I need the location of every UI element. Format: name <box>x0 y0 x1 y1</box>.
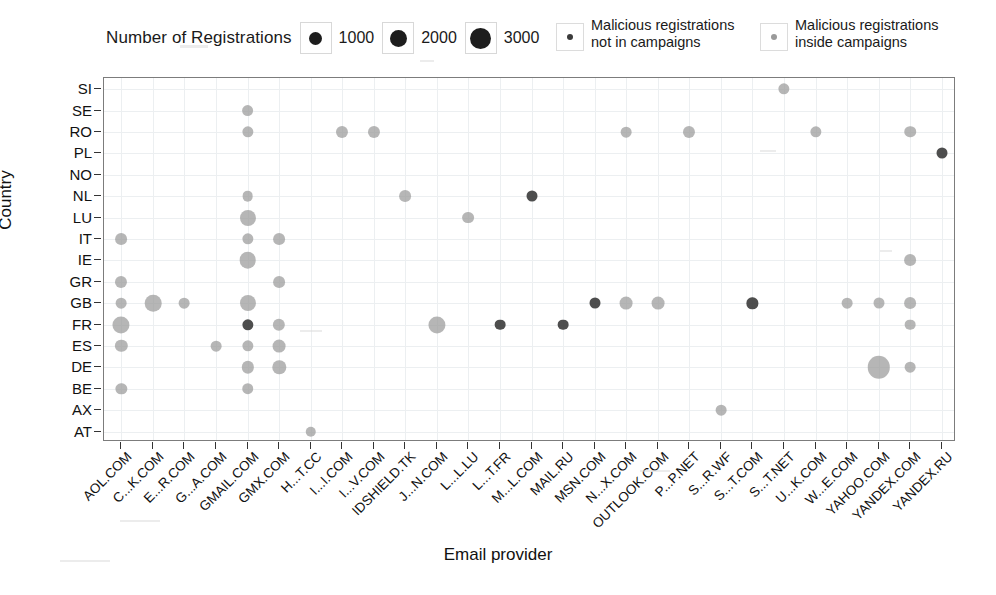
x-tick-mark <box>120 442 121 449</box>
gridline-horizontal <box>104 153 954 154</box>
gridline-vertical <box>532 78 533 440</box>
y-tick-mark <box>94 217 101 218</box>
data-point <box>558 319 569 330</box>
y-tick-mark <box>94 409 101 410</box>
gridline-vertical <box>563 78 564 440</box>
data-point <box>867 356 889 378</box>
data-point <box>905 362 916 373</box>
gridline-horizontal <box>104 432 954 433</box>
x-tick-mark <box>941 442 942 449</box>
gridline-horizontal <box>104 89 954 90</box>
data-point <box>428 316 445 333</box>
x-tick-mark <box>247 442 248 449</box>
gridline-vertical <box>153 78 154 440</box>
data-point <box>747 298 758 309</box>
x-axis-tick-labels: AOL.COMC...K.COME...R.COMG...A.COMGMAIL.… <box>0 449 996 539</box>
y-tick-mark <box>94 431 101 432</box>
x-tick-mark <box>783 442 784 449</box>
x-tick-mark <box>531 442 532 449</box>
data-point <box>272 361 285 374</box>
data-point <box>116 298 127 309</box>
x-tick-mark <box>436 442 437 449</box>
x-tick-mark <box>341 442 342 449</box>
scan-artifact <box>60 560 110 562</box>
x-tick-mark <box>467 442 468 449</box>
y-tick-mark <box>94 88 101 89</box>
gridline-horizontal <box>104 325 954 326</box>
gridline-vertical <box>658 78 659 440</box>
data-point <box>873 298 884 309</box>
y-tick-mark <box>94 302 101 303</box>
gridline-horizontal <box>104 218 954 219</box>
data-point <box>620 297 633 310</box>
x-axis-title: Email provider <box>0 545 996 565</box>
gridline-vertical <box>847 78 848 440</box>
data-point <box>115 340 127 352</box>
gridline-vertical <box>279 78 280 440</box>
x-tick-mark <box>878 442 879 449</box>
x-tick-mark <box>152 442 153 449</box>
x-tick-mark <box>499 442 500 449</box>
scan-artifact <box>300 330 322 332</box>
gridline-vertical <box>437 78 438 440</box>
data-point <box>368 126 380 138</box>
gridline-vertical <box>942 78 943 440</box>
data-point <box>683 126 695 138</box>
gridline-horizontal <box>104 260 954 261</box>
data-point <box>905 319 916 330</box>
data-point <box>240 210 256 226</box>
gridline-vertical <box>752 78 753 440</box>
x-tick-mark <box>846 442 847 449</box>
gridline-vertical <box>721 78 722 440</box>
x-tick-mark <box>720 442 721 449</box>
x-tick-mark <box>688 442 689 449</box>
gridline-horizontal <box>104 389 954 390</box>
gridline-horizontal <box>104 175 954 176</box>
data-point <box>273 340 286 353</box>
data-point <box>526 191 537 202</box>
scan-artifact <box>180 45 208 48</box>
data-point <box>589 298 600 309</box>
gridline-horizontal <box>104 410 954 411</box>
scan-artifact <box>760 150 776 152</box>
y-tick-mark <box>94 366 101 367</box>
data-point <box>242 319 253 330</box>
gridline-vertical <box>468 78 469 440</box>
x-tick-mark <box>815 442 816 449</box>
gridline-vertical <box>184 78 185 440</box>
data-point <box>651 297 664 310</box>
gridline-vertical <box>784 78 785 440</box>
data-point <box>904 255 916 267</box>
data-point <box>116 383 127 394</box>
data-point <box>904 297 916 309</box>
x-tick-mark <box>310 442 311 449</box>
x-tick-mark <box>562 442 563 449</box>
x-tick-mark <box>183 442 184 449</box>
bubble-chart: Country SISEROPLNONLLUITIEGRGBFRESDEBEAX… <box>0 0 996 595</box>
data-point <box>211 341 222 352</box>
x-tick-mark <box>657 442 658 449</box>
scan-artifact <box>120 520 160 522</box>
y-tick-mark <box>94 195 101 196</box>
x-tick-mark <box>625 442 626 449</box>
gridline-horizontal <box>104 367 954 368</box>
x-tick-mark <box>594 442 595 449</box>
data-point <box>273 233 285 245</box>
data-point <box>242 383 254 395</box>
gridline-horizontal <box>104 239 954 240</box>
y-tick-mark <box>94 110 101 111</box>
data-point <box>936 148 947 159</box>
data-point <box>241 361 253 373</box>
gridline-horizontal <box>104 346 954 347</box>
y-tick-mark <box>94 324 101 325</box>
scan-artifact <box>640 470 670 472</box>
y-tick-mark <box>94 174 101 175</box>
y-tick-mark <box>94 152 101 153</box>
gridline-vertical <box>311 78 312 440</box>
x-tick-mark <box>215 442 216 449</box>
data-point <box>145 295 162 312</box>
scan-artifact <box>420 60 434 62</box>
y-tick-mark <box>94 259 101 260</box>
data-point <box>810 126 821 137</box>
x-tick-mark <box>404 442 405 449</box>
